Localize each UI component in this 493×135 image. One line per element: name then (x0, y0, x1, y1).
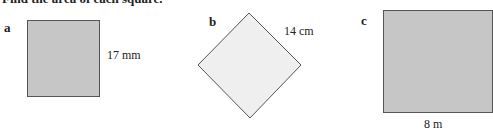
side-length-b: 14 cm (284, 24, 314, 39)
figure-label-c: c (361, 13, 367, 29)
side-length-c: 8 m (424, 117, 442, 132)
square-c (383, 10, 493, 113)
